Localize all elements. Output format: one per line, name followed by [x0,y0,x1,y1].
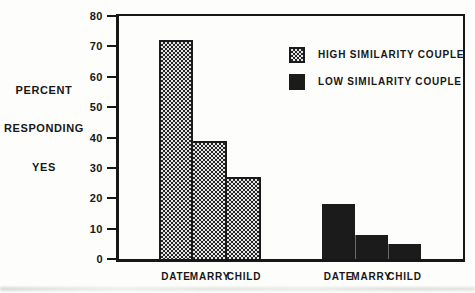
x-category-label-child: CHILD [227,271,262,282]
solid-swatch-icon [289,74,305,90]
y-tick-mark [107,76,116,78]
x-category-label-marry: MARRY [190,271,230,282]
x-category-label-marry: MARRY [351,271,391,282]
legend-item-low-similarity: LOW SIMILARITY COUPLE [289,73,464,90]
y-tick-mark [107,197,116,199]
y-tick-label: 10 [64,222,103,236]
bar-solid-date [322,204,355,259]
y-tick-label: 30 [64,161,103,175]
legend-item-high-similarity: HIGH SIMILARITY COUPLE [289,46,464,63]
plot-area: HIGH SIMILARITY COUPLE LOW SIMILARITY CO… [116,14,465,262]
bar-hatched-marry [191,141,227,259]
y-tick-mark [107,167,116,169]
bar-chart-figure: PERCENT RESPONDING YES 01020304050607080… [0,0,475,293]
x-category-label-date: DATE [161,271,191,282]
y-tick-label: 0 [64,252,103,266]
y-tick-mark [107,258,116,260]
bar-solid-marry [355,235,388,259]
y-tick-mark [107,15,116,17]
y-tick-label: 40 [64,131,103,145]
x-category-label-child: CHILD [387,271,422,282]
x-category-label-date: DATE [324,271,354,282]
bar-hatched-date [159,40,193,259]
y-tick-label: 70 [64,39,103,53]
bar-hatched-child [225,177,261,259]
legend-label-low-similarity: LOW SIMILARITY COUPLE [318,76,462,87]
scan-artifact [0,287,475,291]
hatched-swatch-icon [289,47,305,63]
legend: HIGH SIMILARITY COUPLE LOW SIMILARITY CO… [289,46,464,100]
bar-solid-child [388,244,421,259]
y-tick-mark [107,137,116,139]
legend-label-high-similarity: HIGH SIMILARITY COUPLE [318,49,464,60]
y-tick-label: 60 [64,70,103,84]
y-tick-label: 80 [64,9,103,23]
y-tick-mark [107,106,116,108]
y-tick-mark [107,228,116,230]
y-tick-label: 20 [64,191,103,205]
y-tick-label: 50 [64,100,103,114]
y-axis-title-line-1: PERCENT [0,84,88,96]
y-tick-mark [107,45,116,47]
